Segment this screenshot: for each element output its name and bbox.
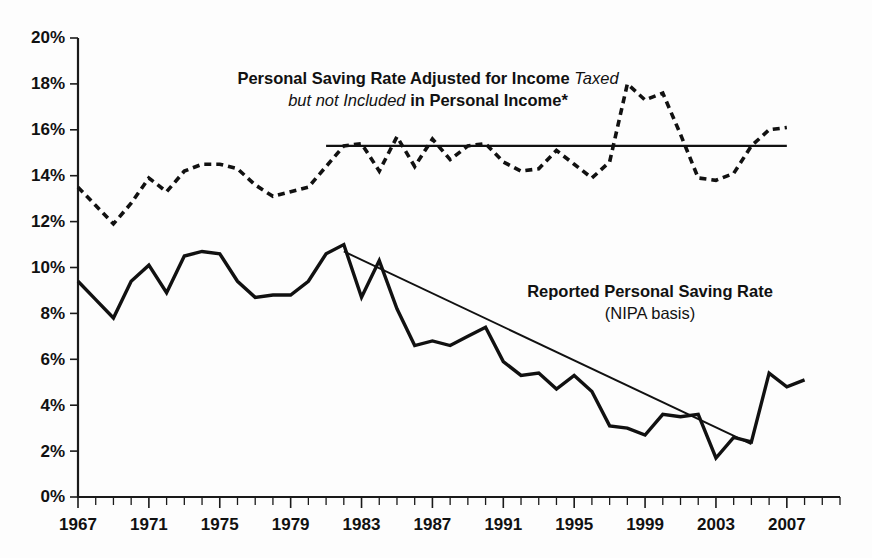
annotation-adjusted-line2-italic: but not Included	[288, 91, 405, 109]
annotation-adjusted-line1-italic: Taxed	[574, 69, 618, 87]
x-tick-label-1979: 1979	[272, 515, 310, 534]
y-tick-label-10: 10%	[31, 258, 65, 277]
x-tick-label-1971: 1971	[130, 515, 168, 534]
chart-container: 0%2%4%6%8%10%12%14%16%18%20% 19671971197…	[0, 0, 872, 558]
annotation-adjusted-line1-bold: Personal Saving Rate Adjusted for Income	[237, 69, 569, 87]
y-tick-label-14: 14%	[31, 166, 65, 185]
y-tick-label-12: 12%	[31, 212, 65, 231]
y-tick-label-18: 18%	[31, 74, 65, 93]
x-axis-tick-labels: 1967197119751979198319871991199519992003…	[59, 515, 806, 534]
y-tick-label-8: 8%	[40, 304, 65, 323]
annotation-reported-series: Reported Personal Saving Rate (NIPA basi…	[505, 281, 795, 325]
x-axis-ticks	[78, 497, 840, 508]
x-tick-label-1975: 1975	[201, 515, 239, 534]
x-tick-label-1967: 1967	[59, 515, 97, 534]
x-tick-label-1999: 1999	[626, 515, 664, 534]
annotation-adjusted-line2-bold: in Personal Income*	[410, 91, 568, 109]
x-tick-label-1983: 1983	[343, 515, 381, 534]
x-tick-label-2007: 2007	[768, 515, 806, 534]
y-tick-label-4: 4%	[40, 396, 65, 415]
x-tick-label-1987: 1987	[414, 515, 452, 534]
y-tick-label-6: 6%	[40, 350, 65, 369]
series-path-reported	[78, 245, 805, 458]
data-series	[78, 84, 805, 458]
annotation-adjusted-line2: but not Included in Personal Income*	[128, 90, 728, 112]
y-tick-label-16: 16%	[31, 120, 65, 139]
y-axis-ticks	[70, 38, 78, 497]
annotation-reported-line2: (NIPA basis)	[505, 303, 795, 325]
y-axis-tick-labels: 0%2%4%6%8%10%12%14%16%18%20%	[31, 28, 65, 506]
annotation-reported-line1: Reported Personal Saving Rate	[527, 282, 773, 300]
y-tick-label-0: 0%	[40, 487, 65, 506]
y-tick-label-2: 2%	[40, 442, 65, 461]
y-tick-label-20: 20%	[31, 28, 65, 47]
x-tick-label-1991: 1991	[484, 515, 522, 534]
x-tick-label-2003: 2003	[697, 515, 735, 534]
annotation-adjusted-series: Personal Saving Rate Adjusted for Income…	[128, 68, 728, 112]
x-tick-label-1995: 1995	[555, 515, 593, 534]
